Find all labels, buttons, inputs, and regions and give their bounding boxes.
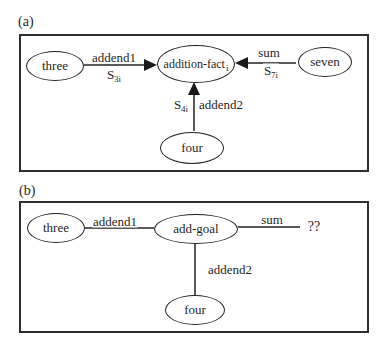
edge-sum-label: sum [257,46,281,59]
sum-result-unknown: ?? [307,220,321,234]
node-four: four [160,132,224,164]
node-three: three [26,51,84,81]
edge-sum-strength: S7i [263,64,279,77]
node-add-goal-label: add-goal [173,221,218,237]
node-three-label: three [42,58,68,74]
node-three-b: three [27,213,85,243]
edge-addend2-label: addend2 [198,98,244,111]
node-seven: seven [298,47,352,77]
node-four-b: four [165,295,225,325]
node-four-b-label: four [184,302,206,318]
edge-sum-label-b: sum [260,213,284,226]
node-three-b-label: three [43,220,69,236]
edge-sum-arrowhead [235,57,248,69]
panel-b-label: (b) [19,183,35,199]
edge-addend1-arrowhead [144,59,157,71]
node-addition-fact-label: addition-facti [164,57,229,72]
figure-addition-network: (a) three addition-facti seven four adde… [0,0,382,346]
node-four-label: four [181,140,203,156]
edge-addend2-label-b: addend2 [207,263,253,276]
panel-b-box: three add-goal four addend1 sum ?? adden… [19,201,369,333]
panel-a-label: (a) [18,14,34,30]
node-add-goal: add-goal [154,214,238,244]
edge-addend2-strength: S4i [173,98,189,111]
node-addition-fact: addition-facti [157,45,235,83]
node-seven-label: seven [310,54,340,70]
edge-addend2-arrowhead [188,82,200,95]
panel-a-box: three addition-facti seven four addend1 … [19,34,369,172]
edge-addend1-strength: S3i [106,68,122,81]
edge-addend1-label: addend1 [91,51,137,64]
edge-addend1-label-b: addend1 [92,215,138,228]
